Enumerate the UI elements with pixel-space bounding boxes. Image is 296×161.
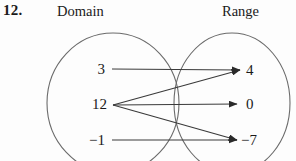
domain-value-neg1: −1 [89,133,105,148]
mapping-diagram-figure: 12. Domain Range 3 12 −1 4 0 −7 [0,0,296,161]
range-value-0: 0 [246,97,254,112]
mapping-arrow-12-to-4 [113,70,240,105]
mapping-arrow-12-to-0 [113,104,237,105]
range-set-ellipse [174,33,290,161]
domain-value-12: 12 [92,97,107,112]
range-value-neg7: −7 [241,133,257,148]
range-value-4: 4 [246,63,254,78]
domain-value-3: 3 [98,62,106,77]
domain-set-ellipse [47,33,179,161]
mapping-arrow-12-to--7 [113,105,237,140]
mapping-arrow-3-to-4 [112,69,240,70]
